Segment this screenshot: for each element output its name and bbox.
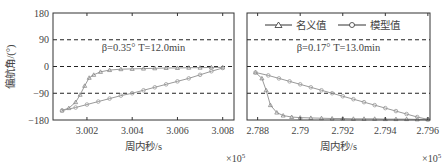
x-tick-label: 3.002	[76, 125, 99, 136]
annotation-text: β=0.17° T=13.0min	[297, 42, 381, 53]
x-multiplier: ×105	[226, 152, 246, 164]
x-tick-label: 2.792	[332, 125, 355, 136]
x-tick-label: 2.796	[417, 125, 440, 136]
x-axis-label: 周内秒/s	[320, 140, 357, 152]
x-tick-label: 2.788	[246, 125, 269, 136]
x-tick-label: 3.004	[121, 125, 144, 136]
legend-model: 模型值	[370, 19, 401, 31]
y-axis-label: 偏航角/(°)	[4, 44, 17, 89]
y-tick-label: 180	[34, 8, 49, 19]
series-line	[256, 72, 428, 119]
legend: 名义值模型值	[265, 19, 401, 31]
x-tick-label: 2.79	[291, 125, 309, 136]
legend-nominal: 名义值	[296, 19, 327, 31]
x-tick-label: 2.794	[374, 125, 397, 136]
annotation-text: β=0.35° T=12.0min	[102, 42, 186, 53]
left-panel: 3.0023.0043.0063.008180900−90−180β=0.35°…	[4, 8, 246, 165]
y-tick-label: 0	[44, 61, 49, 72]
chart-canvas: 3.0023.0043.0063.008180900−90−180β=0.35°…	[0, 0, 444, 167]
y-tick-label: −90	[33, 88, 49, 99]
x-tick-label: 3.008	[211, 125, 234, 136]
x-axis-label: 周内秒/s	[125, 140, 162, 152]
y-tick-label: 90	[39, 34, 49, 45]
x-tick-label: 3.006	[166, 125, 189, 136]
circle-icon	[350, 23, 355, 28]
right-panel: 2.7882.792.7922.7942.796β=0.17° T=13.0mi…	[246, 13, 441, 164]
y-tick-label: −180	[28, 115, 49, 126]
x-multiplier: ×105	[422, 152, 442, 164]
